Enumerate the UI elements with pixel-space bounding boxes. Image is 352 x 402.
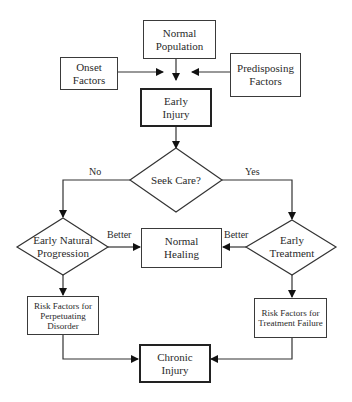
edge-label-no: No — [89, 166, 101, 178]
normal-healing-label: Normal Healing — [158, 235, 206, 261]
edge-label-yes: Yes — [245, 166, 260, 178]
early-injury-label: Early Injury — [156, 95, 196, 121]
early-natural-progression-label: Early Natural Progression — [22, 232, 104, 262]
normal-population-box: Normal Population — [143, 20, 216, 59]
chronic-injury-box: Chronic Injury — [139, 344, 211, 383]
early-injury-box: Early Injury — [140, 88, 212, 127]
edge-label-better-left: Better — [107, 229, 131, 241]
arrow-yes — [222, 180, 292, 219]
risk-factors-perpetuating-box: Risk Factors for Perpetuating Disorder — [27, 296, 99, 335]
onset-factors-box: Onset Factors — [60, 57, 118, 90]
arrow-risk-right-to-chronic — [211, 338, 292, 359]
arrow-no — [63, 180, 130, 217]
risk-factors-perpetuating-label: Risk Factors for Perpetuating Disorder — [30, 301, 96, 331]
seek-care-label: Seek Care? — [146, 164, 206, 196]
early-treatment-label: Early Treatment — [262, 232, 322, 262]
predisposing-factors-label: Predisposing Factors — [233, 62, 299, 88]
risk-factors-treatment-failure-box: Risk Factors for Treatment Failure — [254, 298, 327, 338]
edge-label-better-right: Better — [224, 229, 248, 241]
onset-factors-label: Onset Factors — [67, 61, 111, 87]
chronic-injury-label: Chronic Injury — [153, 351, 197, 377]
normal-population-label: Normal Population — [152, 27, 208, 53]
arrow-risk-left-to-chronic — [63, 335, 138, 359]
predisposing-factors-box: Predisposing Factors — [230, 53, 301, 97]
normal-healing-box: Normal Healing — [141, 228, 222, 268]
risk-factors-treatment-failure-label: Risk Factors for Treatment Failure — [258, 308, 324, 328]
